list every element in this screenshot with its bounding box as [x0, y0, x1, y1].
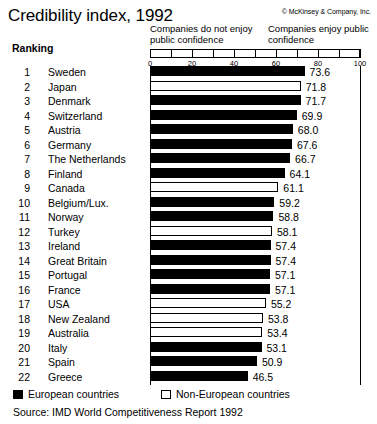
source-note: Source: IMD World Competitiveness Report…	[13, 406, 243, 418]
bar-value-label: 57.1	[275, 270, 295, 280]
rank-country-name: Australia	[48, 328, 89, 338]
rank-country-name: Japan	[48, 82, 77, 92]
bar-value-label: 53.4	[267, 328, 287, 338]
rank-number: 10	[0, 198, 30, 208]
bar	[150, 240, 271, 250]
rank-number: 7	[0, 154, 30, 164]
rank-country-name: New Zealand	[48, 314, 110, 324]
rank-country-name: Ireland	[48, 241, 80, 251]
bar	[150, 226, 272, 236]
rank-country-name: Germany	[48, 140, 91, 150]
bar	[150, 342, 262, 352]
axis-tick-90	[339, 49, 340, 58]
bar-value-label: 57.1	[275, 285, 295, 295]
bar-value-label: 71.8	[306, 82, 326, 92]
credibility-index-chart: Credibility index, 1992 © McKinsey & Com…	[0, 0, 377, 424]
bar	[150, 197, 274, 207]
rank-country-name: Great Britain	[48, 256, 107, 266]
rank-country-name: Turkey	[48, 227, 80, 237]
rank-country-name: Belgium/Lux.	[48, 198, 109, 208]
page-title: Credibility index, 1992	[8, 6, 173, 26]
axis-tick-70	[297, 49, 298, 58]
rank-number: 14	[0, 256, 30, 266]
rank-country-name: Denmark	[48, 96, 91, 106]
bar-value-label: 66.7	[295, 154, 315, 164]
bar-value-label: 53.1	[267, 343, 287, 353]
column-header-low-confidence: Companies do not enjoy public confidence	[150, 24, 260, 45]
rank-number: 2	[0, 82, 30, 92]
rank-number: 5	[0, 125, 30, 135]
legend-label-european: European countries	[28, 389, 119, 399]
bar	[150, 153, 290, 163]
bar-value-label: 58.1	[277, 227, 297, 237]
bar-value-label: 50.9	[262, 357, 282, 367]
bar	[150, 327, 262, 337]
bar-value-label: 46.5	[253, 372, 273, 382]
legend-item-european: European countries	[13, 389, 119, 399]
rank-number: 1	[0, 67, 30, 77]
bar-value-label: 59.2	[279, 198, 299, 208]
axis-tick-10	[171, 49, 172, 58]
rank-number: 20	[0, 343, 30, 353]
bar-value-label: 73.6	[310, 67, 330, 77]
bars-plot-area	[150, 66, 361, 385]
rank-number: 15	[0, 270, 30, 280]
rank-number: 22	[0, 372, 30, 382]
bar-value-label: 53.8	[268, 314, 288, 324]
bar-value-label: 69.9	[302, 111, 322, 121]
rank-number: 18	[0, 314, 30, 324]
bar	[150, 371, 248, 381]
column-header-high-confidence: Companies enjoy public confidence	[268, 24, 373, 45]
rank-country-name: Finland	[48, 169, 82, 179]
rank-number: 3	[0, 96, 30, 106]
rank-country-name: Norway	[48, 212, 84, 222]
rank-number: 4	[0, 111, 30, 121]
bar-value-label: 57.4	[276, 256, 296, 266]
bar	[150, 95, 301, 105]
rank-country-name: Portugal	[48, 270, 87, 280]
rank-number: 21	[0, 357, 30, 367]
rank-number: 9	[0, 183, 30, 193]
bar	[150, 255, 271, 265]
bar	[150, 298, 266, 308]
bar	[150, 211, 273, 221]
ranking-column-header: Ranking	[12, 42, 53, 54]
rank-number: 6	[0, 140, 30, 150]
bar	[150, 168, 285, 178]
bar	[150, 284, 270, 294]
rank-number: 13	[0, 241, 30, 251]
copyright-notice: © McKinsey & Company, Inc.	[282, 8, 371, 15]
bar	[150, 356, 257, 366]
axis-tick-0	[150, 49, 151, 58]
bar	[150, 124, 293, 134]
legend-swatch-european-icon	[13, 390, 23, 399]
rank-number: 16	[0, 285, 30, 295]
bar	[150, 313, 263, 323]
rank-number: 12	[0, 227, 30, 237]
rank-country-name: The Netherlands	[48, 154, 126, 164]
rank-country-name: Sweden	[48, 67, 86, 77]
rank-country-name: Italy	[48, 343, 67, 353]
rank-number: 11	[0, 212, 30, 222]
bar-value-label: 71.7	[306, 96, 326, 106]
bar	[150, 139, 292, 149]
bar-value-label: 55.2	[271, 299, 291, 309]
bar	[150, 81, 301, 91]
axis-tick-60	[276, 49, 277, 58]
bar	[150, 110, 297, 120]
bar	[150, 66, 305, 76]
legend-item-non-european: Non-European countries	[161, 389, 290, 399]
axis-tick-30	[213, 49, 214, 58]
rank-number: 8	[0, 169, 30, 179]
axis-tick-40	[234, 49, 235, 58]
bar-value-label: 64.1	[290, 169, 310, 179]
bar-value-label: 58.8	[278, 212, 298, 222]
rank-country-name: Switzerland	[48, 111, 102, 121]
bar	[150, 269, 270, 279]
bar-value-label: 67.6	[297, 140, 317, 150]
rank-number: 19	[0, 328, 30, 338]
rank-country-name: Greece	[48, 372, 82, 382]
bar-value-label: 57.4	[276, 241, 296, 251]
legend-swatch-non-european-icon	[161, 390, 171, 399]
rank-country-name: USA	[48, 299, 70, 309]
